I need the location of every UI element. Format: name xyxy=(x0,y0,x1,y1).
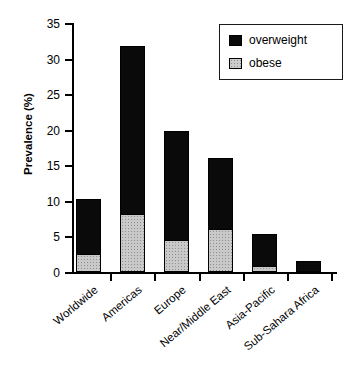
bar-segment-overweight xyxy=(296,261,321,272)
y-tick-mark xyxy=(65,59,72,61)
legend-label-overweight: overweight xyxy=(249,34,307,46)
y-tick-mark xyxy=(65,201,72,203)
y-tick-mark xyxy=(65,23,72,25)
bar-asia-pacific xyxy=(252,234,277,272)
y-tick-label: 20 xyxy=(20,125,60,137)
black-square-icon xyxy=(229,35,242,46)
bar-sub-sahara-africa xyxy=(296,261,321,272)
y-axis-line xyxy=(72,23,74,273)
bar-segment-overweight xyxy=(252,234,277,268)
x-tick-mark xyxy=(110,274,112,281)
bar-americas xyxy=(120,46,145,272)
y-tick-mark xyxy=(65,165,72,167)
legend: overweight obese xyxy=(219,24,343,80)
y-tick-label: 10 xyxy=(20,196,60,208)
legend-item-overweight: overweight xyxy=(229,32,307,48)
y-tick-mark xyxy=(65,236,72,238)
bar-segment-obese xyxy=(76,254,101,272)
x-tick-mark xyxy=(287,274,289,281)
bar-segment-overweight xyxy=(208,158,233,230)
x-tick-mark xyxy=(331,274,333,281)
bar-europe xyxy=(164,131,189,272)
x-tick-mark xyxy=(199,274,201,281)
stacked-bar-chart: Prevalence (%) 05101520253035 WorldwideA… xyxy=(0,0,352,372)
bar-segment-overweight xyxy=(120,46,145,215)
y-tick-label: 25 xyxy=(20,89,60,101)
bar-worldwide xyxy=(76,199,101,272)
y-tick-mark xyxy=(65,94,72,96)
legend-item-obese: obese xyxy=(229,55,282,71)
y-tick-mark xyxy=(65,130,72,132)
y-tick-label: 5 xyxy=(20,231,60,243)
y-tick-label: 35 xyxy=(20,18,60,30)
stippled-square-icon xyxy=(229,58,242,69)
bar-segment-obese xyxy=(164,240,189,272)
bar-segment-obese xyxy=(120,214,145,272)
y-tick-mark xyxy=(65,272,72,274)
legend-label-obese: obese xyxy=(249,57,282,69)
bar-segment-overweight xyxy=(164,131,189,241)
x-tick-mark xyxy=(154,274,156,281)
y-tick-label: 0 xyxy=(20,267,60,279)
bar-segment-obese xyxy=(252,266,277,272)
bar-segment-obese xyxy=(208,229,233,272)
bar-near-middle-east xyxy=(208,158,233,272)
y-tick-label: 15 xyxy=(20,160,60,172)
y-tick-label: 30 xyxy=(20,54,60,66)
x-tick-mark xyxy=(243,274,245,281)
bar-segment-overweight xyxy=(76,199,101,255)
